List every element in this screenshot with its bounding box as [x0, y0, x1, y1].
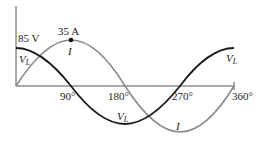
current-peak-dot — [69, 38, 74, 43]
i-bottom-label: I — [175, 120, 181, 132]
tick-180: 180° — [108, 90, 129, 102]
waveform-diagram: 85 V 35 A VL I VL VL I 90° 180° 270° 360… — [0, 0, 264, 144]
tick-360: 360° — [232, 90, 253, 102]
current-peak-label: 35 A — [58, 25, 79, 37]
tick-90: 90° — [60, 90, 75, 102]
vl-bottom-label: VL — [117, 110, 129, 124]
voltage-peak-label: 85 V — [18, 32, 40, 44]
tick-270: 270° — [172, 90, 193, 102]
vl-right-label: VL — [226, 52, 238, 66]
i-top-label: I — [67, 45, 73, 57]
vl-left-label: VL — [19, 53, 31, 67]
